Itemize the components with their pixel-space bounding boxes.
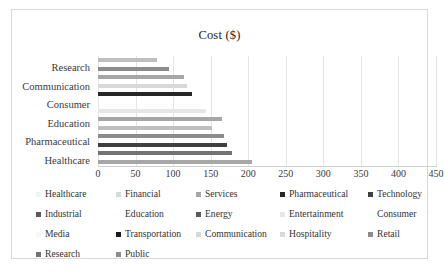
bar[interactable] xyxy=(98,134,224,138)
bar[interactable] xyxy=(98,75,184,79)
legend-item[interactable]: Financial xyxy=(116,189,196,199)
legend-item[interactable]: Energy xyxy=(196,209,280,219)
legend-label: Services xyxy=(205,189,238,199)
bar-fill xyxy=(98,143,227,147)
legend-swatch-icon xyxy=(368,212,373,217)
x-tick-label: 300 xyxy=(316,168,331,179)
bar-fill xyxy=(98,67,169,71)
x-axis-tick-labels: 050100150200250300350400450 xyxy=(98,168,437,182)
y-axis-label: Research xyxy=(52,62,90,73)
y-axis-label: Communication xyxy=(22,81,90,92)
legend-label: Energy xyxy=(205,209,233,219)
bar-fill xyxy=(98,75,184,79)
bar-fill xyxy=(98,92,192,96)
legend-label: Pharmaceutical xyxy=(289,189,348,199)
legend-swatch-icon xyxy=(280,212,285,217)
x-axis-line xyxy=(98,166,437,167)
bar-fill xyxy=(98,160,252,164)
gridline xyxy=(398,56,399,166)
legend-item[interactable]: Research xyxy=(36,249,116,259)
legend-swatch-icon xyxy=(116,252,121,257)
legend-item[interactable]: Industrial xyxy=(36,209,116,219)
legend-label: Transportation xyxy=(125,229,181,239)
bar-fill xyxy=(98,58,157,62)
legend-item[interactable]: Media xyxy=(36,229,116,239)
legend-label: Industrial xyxy=(45,209,82,219)
legend-item[interactable]: Consumer xyxy=(368,209,426,219)
legend-item[interactable]: Healthcare xyxy=(36,189,116,199)
bar[interactable] xyxy=(98,126,212,130)
gridline xyxy=(211,56,212,166)
legend-item[interactable]: Education xyxy=(116,209,196,219)
x-tick-label: 50 xyxy=(131,168,141,179)
bar-fill xyxy=(98,109,206,113)
y-axis-labels: ResearchCommunicationConsumerEducationPh… xyxy=(12,56,94,168)
bar[interactable] xyxy=(98,143,227,147)
x-tick-label: 100 xyxy=(166,168,181,179)
bar-fill xyxy=(98,117,222,121)
x-tick-label: 350 xyxy=(353,168,368,179)
legend-item[interactable]: Hospitality xyxy=(280,229,368,239)
chart-legend: HealthcareFinancialServicesPharmaceutica… xyxy=(36,184,426,264)
y-axis-label: Healthcare xyxy=(45,155,90,166)
gridline xyxy=(436,56,437,166)
bar-fill xyxy=(98,134,224,138)
bar[interactable] xyxy=(98,92,192,96)
chart-frame: Cost ($) ResearchCommunicationConsumerEd… xyxy=(11,9,428,259)
legend-item[interactable]: Services xyxy=(196,189,280,199)
bar[interactable] xyxy=(98,58,157,62)
legend-label: Hospitality xyxy=(289,229,332,239)
bar[interactable] xyxy=(98,109,206,113)
legend-item[interactable]: Retail xyxy=(368,229,426,239)
legend-swatch-icon xyxy=(368,232,373,237)
legend-item[interactable]: Entertainment xyxy=(280,209,368,219)
bar[interactable] xyxy=(98,84,187,88)
legend-label: Entertainment xyxy=(289,209,343,219)
legend-swatch-icon xyxy=(116,212,121,217)
legend-swatch-icon xyxy=(196,232,201,237)
gridline xyxy=(248,56,249,166)
legend-item[interactable]: Technology xyxy=(368,189,426,199)
bar-fill xyxy=(98,84,187,88)
legend-label: Education xyxy=(125,209,164,219)
legend-label: Communication xyxy=(205,229,267,239)
legend-label: Consumer xyxy=(377,209,416,219)
legend-swatch-icon xyxy=(36,212,41,217)
x-tick-label: 450 xyxy=(429,168,444,179)
x-tick-label: 150 xyxy=(203,168,218,179)
gridline xyxy=(361,56,362,166)
legend-item[interactable]: Pharmaceutical xyxy=(280,189,368,199)
legend-row: ResearchPublic xyxy=(36,244,426,264)
plot-area xyxy=(98,56,436,166)
y-axis-label: Pharmaceutical xyxy=(25,136,90,147)
bar-fill xyxy=(98,151,232,155)
legend-label: Public xyxy=(125,249,150,259)
legend-label: Retail xyxy=(377,229,400,239)
legend-swatch-icon xyxy=(368,192,373,197)
legend-row: IndustrialEducationEnergyEntertainmentCo… xyxy=(36,204,426,224)
bar[interactable] xyxy=(98,117,222,121)
bar[interactable] xyxy=(98,151,232,155)
bar[interactable] xyxy=(98,160,252,164)
chart-title: Cost ($) xyxy=(12,28,427,43)
gridline xyxy=(286,56,287,166)
legend-label: Media xyxy=(45,229,70,239)
legend-swatch-icon xyxy=(196,212,201,217)
x-tick-label: 200 xyxy=(241,168,256,179)
bar[interactable] xyxy=(98,67,169,71)
y-axis-label: Education xyxy=(47,118,90,129)
legend-swatch-icon xyxy=(116,232,121,237)
legend-swatch-icon xyxy=(280,232,285,237)
legend-swatch-icon xyxy=(280,192,285,197)
legend-item[interactable]: Communication xyxy=(196,229,280,239)
x-tick-label: 400 xyxy=(391,168,406,179)
x-tick-label: 250 xyxy=(278,168,293,179)
legend-item[interactable]: Transportation xyxy=(116,229,196,239)
bar-fill xyxy=(98,126,212,130)
legend-swatch-icon xyxy=(36,192,41,197)
x-tick-label: 0 xyxy=(96,168,101,179)
gridline xyxy=(323,56,324,166)
legend-swatch-icon xyxy=(196,192,201,197)
legend-item[interactable]: Public xyxy=(116,249,196,259)
legend-swatch-icon xyxy=(116,192,121,197)
